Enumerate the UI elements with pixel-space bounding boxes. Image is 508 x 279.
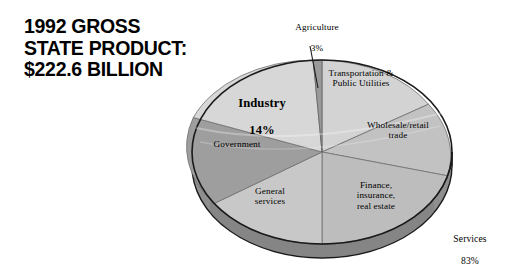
gross-state-product-pie-chart: 1992 GROSS STATE PRODUCT: $222.6 BILLION bbox=[0, 0, 508, 279]
slice-label-wholesale-retail-trade: Wholesale/retail trade bbox=[356, 120, 440, 141]
slice-label-agriculture: Agriculture 3% bbox=[272, 12, 362, 54]
outer-label-services-percent: 83% bbox=[461, 255, 479, 266]
slice-label-agriculture-percent: 3% bbox=[311, 43, 323, 53]
slice-label-finance-insurance-real-estate: Finance, insurance, real estate bbox=[338, 180, 414, 211]
slice-label-agriculture-name: Agriculture bbox=[295, 22, 338, 32]
slice-label-general-services: General services bbox=[236, 186, 304, 207]
slice-label-industry-name: Industry bbox=[238, 96, 286, 110]
outer-label-services: Services 83% bbox=[436, 222, 504, 266]
slice-label-industry: Industry 14% bbox=[224, 84, 300, 138]
outer-label-services-name: Services bbox=[453, 233, 486, 244]
slice-label-transportation-public-utilities: Transportation & Public Utilities bbox=[318, 68, 404, 89]
slice-label-government: Government bbox=[196, 139, 278, 149]
slice-label-industry-percent: 14% bbox=[249, 123, 275, 137]
